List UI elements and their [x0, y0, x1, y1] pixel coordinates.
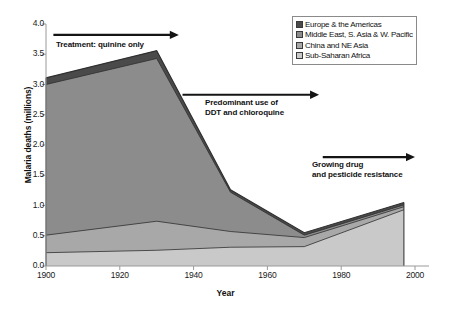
annotation-treatment-quinine-line1: Treatment: quinine only [56, 40, 144, 50]
y-tick-label-0: 0.0 [18, 261, 44, 270]
x-axis-tick-labels: 190019201940196019802000 [0, 271, 451, 283]
x-tick-label-3: 1960 [247, 271, 287, 280]
legend-swatch-middle-east [296, 31, 303, 38]
legend-label-middle-east: Middle East, S. Asia & W. Pacific [305, 30, 413, 39]
y-tick-label-8: 4.0 [18, 19, 44, 28]
legend-swatch-sub-saharan-africa [296, 52, 303, 59]
legend-item-middle-east: Middle East, S. Asia & W. Pacific [296, 30, 413, 40]
annotation-drug-resistance: Growing drug and pesticide resistance [312, 160, 403, 180]
legend-label-sub-saharan-africa: Sub-Saharan Africa [305, 51, 370, 60]
annotation-ddt-chloroquine-line1: Predominant use of [205, 98, 284, 108]
arrow-head-ddt-chloroquine [310, 91, 319, 99]
legend-item-china-ne-asia: China and NE Asia [296, 40, 413, 50]
x-tick-label-4: 1980 [321, 271, 361, 280]
legend-swatch-china-ne-asia [296, 42, 303, 49]
legend-item-europe-americas: Europe & the Americas [296, 19, 413, 29]
y-tick-label-1: 0.5 [18, 231, 44, 240]
plot-areas [46, 51, 404, 266]
legend-swatch-europe-americas [296, 21, 303, 28]
legend-label-china-ne-asia: China and NE Asia [305, 41, 368, 50]
annotation-drug-resistance-line1: Growing drug [312, 160, 403, 170]
x-tick-label-1: 1920 [100, 271, 140, 280]
annotation-ddt-chloroquine: Predominant use of DDT and chloroquine [205, 98, 284, 118]
x-axis-title: Year [0, 288, 451, 298]
x-tick-label-0: 1900 [26, 271, 66, 280]
annotation-ddt-chloroquine-line2: DDT and chloroquine [205, 108, 284, 118]
legend-label-europe-americas: Europe & the Americas [305, 20, 382, 29]
legend-item-sub-saharan-africa: Sub-Saharan Africa [296, 51, 413, 61]
chart-figure: 0.00.51.01.52.02.53.03.54.0 190019201940… [0, 0, 451, 311]
chart-legend: Europe & the Americas Middle East, S. As… [292, 16, 417, 65]
arrow-head-drug-resistance [406, 153, 415, 161]
annotation-drug-resistance-line2: and pesticide resistance [312, 170, 403, 180]
arrow-head-treatment-quinine [170, 31, 179, 39]
y-axis-title: Malaria deaths (millions) [23, 55, 33, 215]
x-tick-label-5: 2000 [395, 271, 435, 280]
x-tick-label-2: 1940 [174, 271, 214, 280]
annotation-treatment-quinine: Treatment: quinine only [56, 40, 144, 50]
